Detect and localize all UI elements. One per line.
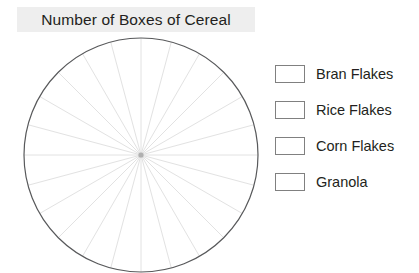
worksheet-page: Number of Boxes of Cereal Bran Flakes Ri… [0, 0, 419, 273]
pie-chart[interactable] [22, 36, 260, 273]
legend-label-bran-flakes: Bran Flakes [316, 66, 393, 82]
chart-title-text: Number of Boxes of Cereal [41, 11, 230, 29]
legend-swatch-rice-flakes[interactable] [275, 101, 305, 119]
legend-swatch-granola[interactable] [275, 173, 305, 191]
chart-title: Number of Boxes of Cereal [17, 7, 255, 32]
pie-center-marker [138, 152, 143, 157]
legend-label-rice-flakes: Rice Flakes [316, 102, 392, 118]
pie-chart-svg [22, 36, 260, 273]
legend-swatch-corn-flakes[interactable] [275, 137, 305, 155]
legend-item-rice-flakes[interactable]: Rice Flakes [275, 92, 419, 128]
legend-label-granola: Granola [316, 174, 368, 190]
legend-item-bran-flakes[interactable]: Bran Flakes [275, 56, 419, 92]
legend-swatch-bran-flakes[interactable] [275, 65, 305, 83]
legend: Bran Flakes Rice Flakes Corn Flakes Gran… [275, 56, 419, 200]
legend-item-granola[interactable]: Granola [275, 164, 419, 200]
legend-label-corn-flakes: Corn Flakes [316, 138, 394, 154]
legend-item-corn-flakes[interactable]: Corn Flakes [275, 128, 419, 164]
